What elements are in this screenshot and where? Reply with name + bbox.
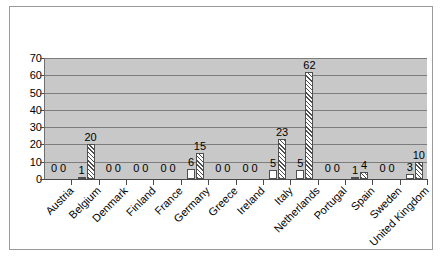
gridline: [45, 58, 427, 59]
bar-value-label: 15: [194, 141, 206, 152]
gridline: [45, 162, 427, 163]
bar-value-label: 0: [106, 163, 112, 174]
bar-value-label: 5: [297, 158, 303, 169]
y-tick-mark: [40, 93, 44, 94]
bar: [196, 153, 204, 179]
bar-value-label: 6: [188, 157, 194, 168]
bar-value-label: 0: [379, 163, 385, 174]
bar: [360, 172, 368, 179]
y-tick-label: 0: [16, 174, 42, 185]
gridline: [45, 75, 427, 76]
bar-value-label: 0: [224, 163, 230, 174]
bar-value-label: 1: [78, 165, 84, 176]
bar-value-label: 3: [407, 162, 413, 173]
y-tick-label: 70: [16, 53, 42, 64]
y-tick-mark: [40, 162, 44, 163]
bar: [187, 169, 195, 179]
y-tick-label: 50: [16, 87, 42, 98]
bar-value-label: 23: [276, 127, 288, 138]
bar: [296, 170, 304, 179]
bar-value-label: 0: [243, 163, 249, 174]
bar-value-label: 4: [361, 160, 367, 171]
y-tick-mark: [40, 75, 44, 76]
bar-value-label: 0: [170, 163, 176, 174]
bar: [278, 139, 286, 179]
gridline: [45, 144, 427, 145]
bar-value-label: 5: [270, 158, 276, 169]
bar: [269, 170, 277, 179]
y-tick-mark: [40, 110, 44, 111]
y-tick-label: 20: [16, 139, 42, 150]
y-tick-label: 10: [16, 156, 42, 167]
y-tick-label: 30: [16, 122, 42, 133]
plot-area: 001200000006150000523562001400310: [44, 58, 427, 179]
chart-figure: 001200000006150000523562001400310 010203…: [9, 6, 433, 250]
y-tick-mark: [40, 127, 44, 128]
y-tick-mark: [40, 144, 44, 145]
y-tick-label: 60: [16, 70, 42, 81]
gridline: [45, 127, 427, 128]
x-axis-labels: AustriaBelgiumDenmarkFinlandFranceGerman…: [44, 185, 428, 249]
bar: [87, 144, 95, 179]
bar-value-label: 0: [334, 163, 340, 174]
bar-value-label: 0: [51, 163, 57, 174]
x-axis-label: Italy: [272, 185, 294, 207]
y-axis: 010203040506070: [10, 7, 42, 249]
bar-value-label: 0: [133, 163, 139, 174]
x-axis-label: Greece: [206, 185, 239, 218]
bar-value-label: 0: [115, 163, 121, 174]
bar-value-label: 0: [215, 163, 221, 174]
bar-value-label: 0: [161, 163, 167, 174]
bar-value-label: 0: [325, 163, 331, 174]
bar-value-label: 62: [303, 60, 315, 71]
y-tick-mark: [40, 58, 44, 59]
bar-value-label: 1: [352, 165, 358, 176]
y-tick-label: 40: [16, 104, 42, 115]
bar-value-label: 0: [142, 163, 148, 174]
bar-value-label: 0: [388, 163, 394, 174]
gridline: [45, 110, 427, 111]
bar: [305, 72, 313, 179]
bar-value-label: 10: [413, 150, 425, 161]
bar-value-label: 0: [252, 163, 258, 174]
gridline: [45, 93, 427, 94]
bar-value-label: 20: [84, 132, 96, 143]
x-axis-label: Ireland: [235, 185, 267, 217]
bar: [415, 162, 423, 179]
x-axis-label: Finland: [124, 185, 157, 218]
bar-value-label: 0: [60, 163, 66, 174]
